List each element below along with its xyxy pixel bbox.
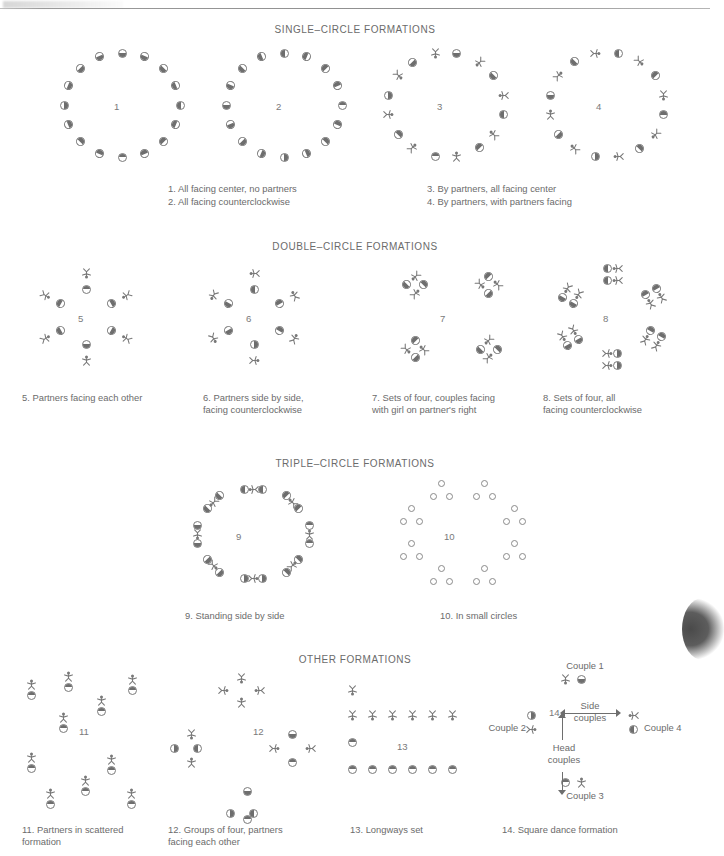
small-circle-group-fig10 <box>502 504 528 528</box>
dancer-boy-fig6 <box>287 288 302 303</box>
dancer-girl-fig13 <box>388 765 397 774</box>
dancer-girl-fig11 <box>127 800 136 809</box>
dancer-boy-fig12 <box>305 743 316 754</box>
dancer-boy-fig8 <box>602 348 613 359</box>
figure-number-9: 9 <box>236 531 241 542</box>
dancer-girl-fig9 <box>305 539 314 548</box>
small-circle-dancer <box>519 518 526 525</box>
dancer-girl-fig5 <box>106 325 118 337</box>
dancer-girl-fig4 <box>633 142 646 155</box>
small-circle-dancer <box>446 578 453 585</box>
figure-number-7: 7 <box>440 313 445 324</box>
dancer-boy-fig9 <box>248 573 259 584</box>
dancer-boy-fig11 <box>126 788 137 799</box>
dancer-girl-fig13 <box>428 765 437 774</box>
dancer-girl-fig3 <box>452 49 461 58</box>
dancer-boy-fig13 <box>367 710 378 721</box>
dancer-boy-fig9 <box>248 484 259 495</box>
dancer-girl-fig11 <box>59 724 68 733</box>
dancer-boy-fig6 <box>249 268 260 279</box>
dancer-girl-fig2 <box>225 119 237 131</box>
section-heading-single-circle: SINGLE–CIRCLE FORMATIONS <box>0 24 710 35</box>
dancer-girl-fig11 <box>27 764 36 773</box>
small-circle-group-fig10 <box>398 504 424 528</box>
dancer-boy-fig12 <box>186 757 197 768</box>
dancer-girl-fig1 <box>63 79 75 91</box>
dancer-girl-fig12 <box>193 744 202 753</box>
label-head-couples: Head couples <box>534 742 594 765</box>
small-circle-group-fig10 <box>471 480 497 504</box>
figure-number-11: 11 <box>79 726 89 737</box>
dancer-boy-fig11 <box>80 775 91 786</box>
section-heading-double-circle: DOUBLE–CIRCLE FORMATIONS <box>0 241 710 252</box>
figure-number-12: 12 <box>253 726 264 737</box>
dancer-girl-fig3 <box>384 91 393 100</box>
dancer-boy-fig13 <box>447 710 458 721</box>
dancer-boy-fig4 <box>613 151 624 162</box>
section-heading-triple-circle: TRIPLE–CIRCLE FORMATIONS <box>0 458 710 469</box>
dancer-girl-fig6 <box>274 325 286 337</box>
dancer-girl-fig11 <box>46 800 55 809</box>
dancer-girl-couple-4 <box>629 725 638 734</box>
small-circle-dancer <box>446 493 453 500</box>
dancer-boy-fig12 <box>218 685 229 696</box>
dancer-boy-fig8 <box>602 360 613 371</box>
dancer-girl-fig5 <box>82 285 91 294</box>
dancer-girl-fig2 <box>280 153 289 162</box>
small-circle-dancer <box>503 518 510 525</box>
dancer-boy-fig6 <box>287 331 302 346</box>
figure-number-13: 13 <box>397 741 408 752</box>
dancer-girl-fig13 <box>408 765 417 774</box>
dancer-girl-fig3 <box>392 128 405 141</box>
dancer-girl-fig2 <box>332 119 344 131</box>
dancer-boy-fig12 <box>186 729 197 740</box>
figure-number-4: 4 <box>596 101 601 112</box>
small-circle-dancer <box>430 578 437 585</box>
dancer-girl-fig2 <box>256 51 268 63</box>
dancer-girl-fig11 <box>81 787 90 796</box>
dancer-boy-couple-4 <box>628 710 639 721</box>
dancer-girl-fig12 <box>170 744 179 753</box>
dancer-girl-fig5 <box>54 325 66 337</box>
dancer-girl-fig4 <box>591 152 600 161</box>
dancer-boy-fig11 <box>58 712 69 723</box>
dancer-boy-fig8 <box>612 275 623 286</box>
dancer-boy-fig3 <box>430 48 441 59</box>
dancer-boy-fig12 <box>236 673 247 684</box>
dancer-girl-couple-2 <box>527 711 536 720</box>
small-circle-dancer <box>511 505 518 512</box>
figure-number-3: 3 <box>437 101 442 112</box>
head-couples-arrow-head-up <box>558 713 566 718</box>
dancer-boy-fig3 <box>486 127 502 143</box>
small-circle-dancer <box>473 493 480 500</box>
dancer-boy-fig3 <box>498 90 509 101</box>
dancer-boy-fig4 <box>647 126 663 142</box>
dancer-girl-fig11 <box>64 683 73 692</box>
dancer-girl-fig6 <box>274 297 286 309</box>
small-circle-group-fig10 <box>398 540 424 564</box>
page-header-rule <box>0 8 710 9</box>
dancer-girl-fig2 <box>319 135 332 148</box>
dancer-girl-fig2 <box>280 49 289 58</box>
figure-caption-7: 7. Sets of four, couples facing with gir… <box>372 392 495 417</box>
dancer-girl-fig13 <box>448 765 457 774</box>
dancer-boy-fig4 <box>632 54 648 70</box>
dancer-boy-fig13 <box>347 710 358 721</box>
side-couples-arrow-line <box>564 713 616 714</box>
label-couple-2: Couple 2 <box>470 722 526 734</box>
figure-number-8: 8 <box>603 313 608 324</box>
small-circle-dancer <box>400 518 407 525</box>
dancer-girl-fig1 <box>170 79 182 91</box>
dancer-girl-fig11 <box>128 686 137 695</box>
dancer-boy-fig12 <box>269 743 280 754</box>
head-couples-arrow-line-down <box>562 772 563 792</box>
small-circle-dancer <box>519 553 526 560</box>
dancer-girl-fig4 <box>553 128 566 141</box>
dancer-girl-fig1 <box>94 51 106 63</box>
dancer-boy-fig9 <box>192 529 203 540</box>
dancer-boy-fig13 <box>427 710 438 721</box>
dancer-boy-fig5 <box>38 331 53 346</box>
figure-caption-13: 13. Longways set <box>350 824 423 836</box>
dancer-boy-fig5 <box>38 288 53 303</box>
